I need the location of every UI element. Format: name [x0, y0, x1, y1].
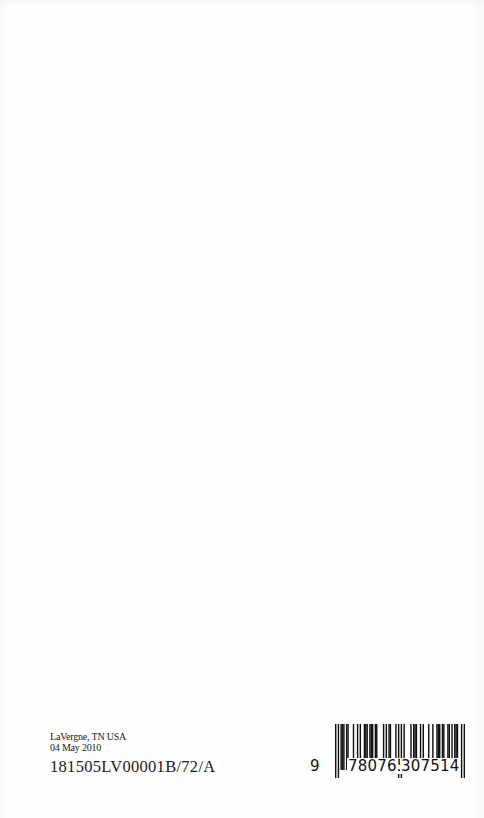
print-location: LaVergne, TN USA [50, 731, 216, 742]
barcode-left-digits: 780765 [347, 758, 407, 774]
print-date: 04 May 2010 [50, 742, 216, 753]
print-code: 181505LV00001B/72/A [50, 758, 216, 776]
book-back-page: LaVergne, TN USA 04 May 2010 181505LV000… [0, 0, 484, 818]
isbn-barcode: 9 780765 307514 [335, 724, 465, 780]
barcode-right-digits: 307514 [400, 758, 460, 774]
printer-imprint: LaVergne, TN USA 04 May 2010 181505LV000… [50, 731, 216, 776]
barcode-lead-digit: 9 [309, 758, 321, 774]
